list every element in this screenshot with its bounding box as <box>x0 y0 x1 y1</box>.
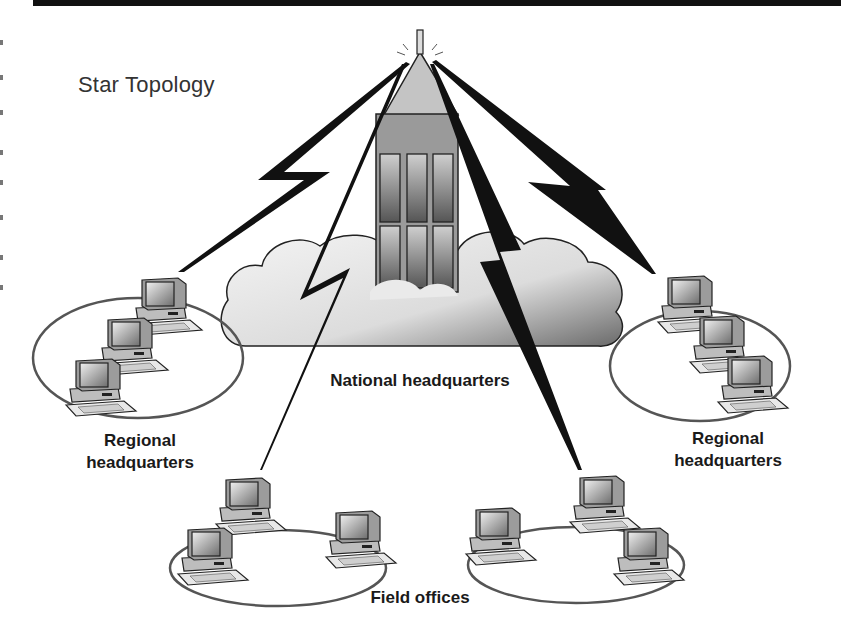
regional-left-label-line1: Regional <box>60 430 220 452</box>
regional-headquarters-right-label: Regional headquarters <box>648 428 808 472</box>
national-headquarters-label: National headquarters <box>300 370 540 392</box>
regional-right-computer-ring <box>610 276 790 421</box>
regional-right-label-line1: Regional <box>648 428 808 450</box>
regional-left-label-line2: headquarters <box>60 452 220 474</box>
field-right-computer-ring <box>466 476 684 603</box>
field-offices-label: Field offices <box>340 587 500 609</box>
diagram-title: Star Topology <box>78 72 215 98</box>
regional-headquarters-left-label: Regional headquarters <box>60 430 220 474</box>
regional-left-computer-ring <box>33 278 243 418</box>
regional-right-label-line2: headquarters <box>648 450 808 472</box>
